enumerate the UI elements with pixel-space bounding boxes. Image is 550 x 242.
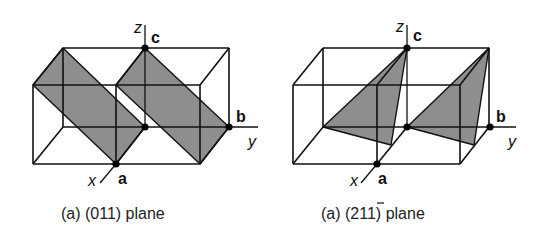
b-label: b [236,108,246,125]
x-axis [100,164,116,183]
a-label: a [118,170,127,187]
c-label: c [413,27,422,44]
c-label: c [151,29,160,46]
point-c [141,44,148,51]
point-b [225,123,232,130]
z-axis-label: z [133,19,142,36]
point-a [112,160,119,167]
point-a [373,160,380,167]
caption-2bar11: (a) (211) plane [321,205,425,222]
x-axis-label: x [87,172,97,189]
crystal-planes-diagram: z c b y x a (a) (011) plane [0,0,550,242]
z-axis-label: z [395,18,404,35]
point-origin [403,123,410,130]
a-label: a [378,170,387,187]
caption-011: (a) (011) plane [61,205,165,222]
figure-011-plane: z c b y x a (a) (011) plane [33,19,258,222]
plane-011-second [116,48,229,164]
point-c [403,44,410,51]
figure-2bar11-plane: z c b y x a (a) (211) plane [293,18,517,222]
y-axis-label: y [507,133,517,150]
b-label: b [496,108,506,125]
point-origin [141,123,148,130]
point-b [486,123,493,130]
x-axis [361,164,377,183]
y-axis-label: y [247,133,257,150]
x-axis-label: x [349,172,359,189]
